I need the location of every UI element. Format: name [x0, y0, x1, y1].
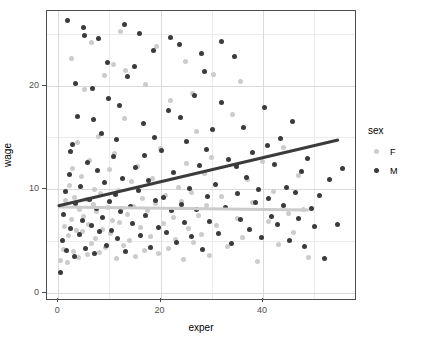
data-point	[181, 257, 186, 262]
data-point	[114, 137, 119, 142]
data-point	[299, 169, 304, 174]
data-point	[191, 240, 196, 245]
data-point	[197, 163, 202, 168]
data-point	[230, 112, 235, 117]
plot-panel	[46, 10, 356, 300]
data-point	[183, 59, 188, 64]
data-point	[90, 86, 95, 91]
data-point	[293, 190, 298, 195]
data-point	[114, 256, 119, 261]
data-point	[142, 248, 147, 253]
data-point	[107, 167, 112, 172]
data-point	[143, 213, 148, 218]
data-point	[65, 18, 70, 23]
gridline-minor-y	[47, 34, 355, 35]
legend-swatch-m-icon	[368, 162, 385, 179]
data-point	[207, 219, 212, 224]
data-point	[213, 182, 218, 187]
data-point	[117, 103, 122, 108]
data-point	[210, 127, 215, 132]
data-point	[68, 149, 73, 154]
data-point	[166, 108, 171, 113]
data-point	[196, 213, 201, 218]
data-point	[187, 186, 192, 191]
data-point	[219, 194, 224, 199]
data-point	[80, 218, 85, 223]
data-point	[238, 79, 243, 84]
data-point	[69, 56, 74, 61]
data-point	[174, 240, 179, 245]
data-point	[58, 258, 63, 263]
x-tick-label: 40	[257, 305, 267, 315]
data-point	[72, 254, 77, 259]
data-point	[269, 214, 274, 219]
data-point	[207, 253, 212, 258]
data-point	[192, 93, 197, 98]
legend-item-f[interactable]: F	[368, 142, 430, 161]
data-point	[247, 227, 252, 232]
data-point	[238, 217, 243, 222]
data-point	[100, 215, 105, 220]
data-point	[176, 185, 181, 190]
y-tick-label: 20	[29, 80, 39, 90]
data-point	[89, 223, 94, 228]
gridline-minor-x	[314, 11, 315, 299]
x-tick-label: 0	[55, 305, 60, 315]
data-point	[67, 183, 72, 188]
data-point	[189, 234, 194, 239]
data-point	[138, 233, 143, 238]
data-point	[253, 200, 258, 205]
data-point	[317, 193, 322, 198]
x-tick-label: 20	[155, 305, 165, 315]
data-point	[96, 36, 101, 41]
data-point	[132, 64, 137, 69]
data-point	[91, 117, 96, 122]
x-tick-mark	[57, 298, 58, 302]
data-point	[209, 155, 214, 160]
data-point	[122, 22, 127, 27]
data-point	[73, 81, 78, 86]
data-point	[235, 191, 240, 196]
data-point	[287, 238, 292, 243]
data-point	[265, 143, 270, 148]
data-point	[214, 223, 219, 228]
gridline-major-x	[58, 11, 59, 299]
data-point	[219, 100, 224, 105]
data-point	[177, 42, 182, 47]
data-point	[148, 245, 153, 250]
data-point	[335, 222, 340, 227]
data-point	[141, 121, 146, 126]
data-point	[78, 184, 83, 189]
data-point	[284, 185, 289, 190]
gridline-major-x	[161, 11, 162, 299]
data-point	[296, 216, 301, 221]
data-point	[199, 232, 204, 237]
data-point	[182, 220, 187, 225]
data-point	[99, 131, 104, 136]
data-point	[70, 166, 75, 171]
data-point	[312, 224, 317, 229]
data-point	[82, 87, 87, 92]
data-point	[133, 254, 138, 259]
data-point	[89, 40, 94, 45]
data-point	[70, 142, 75, 147]
data-point	[164, 230, 169, 235]
data-point	[306, 255, 311, 260]
data-point	[104, 243, 109, 248]
data-point	[302, 244, 307, 249]
data-point	[121, 243, 126, 248]
data-point	[107, 199, 112, 204]
data-point	[102, 180, 107, 185]
data-point	[241, 125, 246, 130]
gridline-major-y	[47, 293, 355, 294]
y-tick-mark	[42, 188, 46, 189]
data-point	[262, 105, 267, 110]
data-point	[122, 116, 127, 121]
data-point	[63, 189, 68, 194]
data-point	[138, 225, 143, 230]
y-tick-label: 10	[29, 183, 39, 193]
data-point	[125, 74, 130, 79]
data-point	[291, 230, 296, 235]
data-point	[92, 251, 97, 256]
legend-item-m[interactable]: M	[368, 161, 430, 180]
